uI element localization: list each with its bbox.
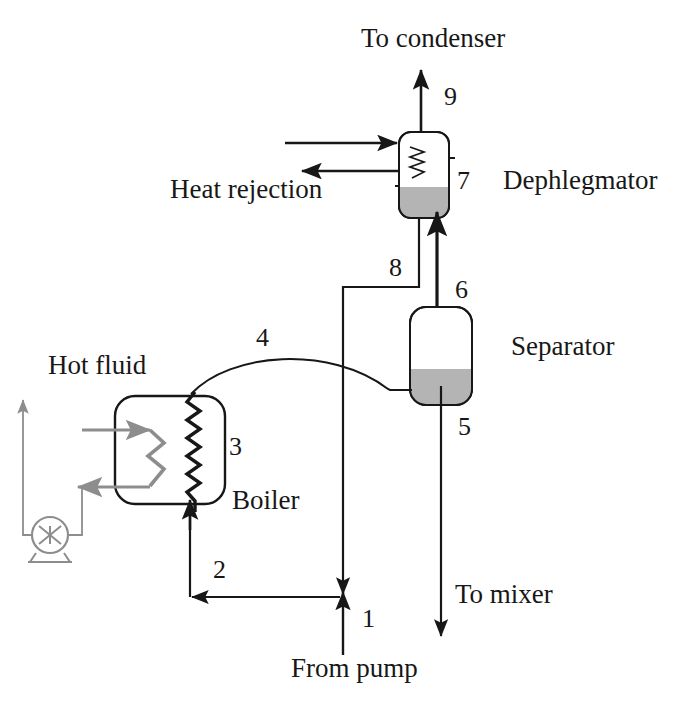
label-separator: Separator [511,333,614,360]
stream-label-9: 9 [444,84,457,110]
boiler-process-coil [187,392,200,512]
stream-8-line [343,218,419,594]
label-hot-fluid: Hot fluid [48,352,146,379]
pump-symbol [28,517,72,562]
stream-label-8: 8 [389,255,402,281]
label-to-condenser: To condenser [361,25,505,52]
stream-4-line [191,359,412,394]
dephlegmator-liquid-level [399,187,449,218]
label-dephlegmator: Dephlegmator [503,167,657,194]
stream-label-6: 6 [455,277,468,303]
stream-label-3: 3 [229,434,242,460]
dephlegmator-vessel [395,132,455,218]
pump-base [30,553,70,562]
process-flow-diagram: To condenser 9 Heat rejection 7 Dephlegm… [0,0,683,701]
stream-label-4: 4 [256,325,269,351]
stream-label-5: 5 [458,414,471,440]
hot-fluid-coil [148,430,164,486]
stream-label-7: 7 [457,168,470,194]
label-heat-rejection: Heat rejection [170,176,322,203]
label-boiler: Boiler [232,487,300,514]
label-from-pump: From pump [291,655,418,682]
hot-fluid-supply-pipe [23,400,32,535]
stream-label-1: 1 [362,606,375,632]
stream-label-2: 2 [213,557,226,583]
hot-fluid-return-pipe [68,487,82,535]
label-to-mixer: To mixer [455,581,553,608]
